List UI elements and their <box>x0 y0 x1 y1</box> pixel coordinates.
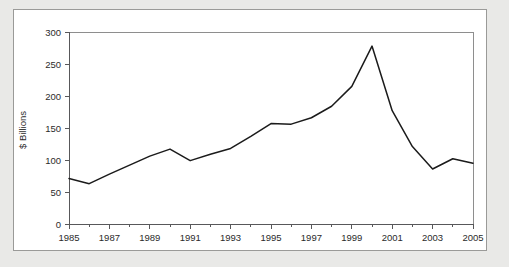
x-tick-label: 1999 <box>341 232 362 243</box>
plot-frame <box>69 32 473 224</box>
line-chart: 050100150200250300 198519871989199119931… <box>14 10 486 250</box>
x-tick-label: 1997 <box>301 232 322 243</box>
y-tick-label: 250 <box>45 59 61 70</box>
chart-panel: 050100150200250300 198519871989199119931… <box>13 9 487 251</box>
x-tick-label: 1985 <box>58 232 79 243</box>
plot-frame-group <box>69 32 473 224</box>
y-tick-label: 50 <box>50 187 61 198</box>
y-axis-ticks: 050100150200250300 <box>45 27 69 230</box>
x-tick-label: 1995 <box>260 232 281 243</box>
y-tick-label: 200 <box>45 91 61 102</box>
figure-root: 050100150200250300 198519871989199119931… <box>0 0 509 267</box>
x-tick-label: 1989 <box>139 232 160 243</box>
data-series-line <box>69 46 473 184</box>
x-tick-label: 1991 <box>180 232 201 243</box>
x-axis-ticks: 1985198719891991199319951997199920012003… <box>58 224 483 243</box>
x-tick-label: 2005 <box>462 232 483 243</box>
y-tick-label: 100 <box>45 155 61 166</box>
y-axis-title: $ Billions <box>17 111 28 149</box>
y-tick-label: 0 <box>56 219 61 230</box>
x-tick-label: 1993 <box>220 232 241 243</box>
y-tick-label: 150 <box>45 123 61 134</box>
x-tick-label: 2003 <box>422 232 443 243</box>
x-tick-label: 1987 <box>99 232 120 243</box>
y-tick-label: 300 <box>45 27 61 38</box>
x-tick-label: 2001 <box>382 232 403 243</box>
